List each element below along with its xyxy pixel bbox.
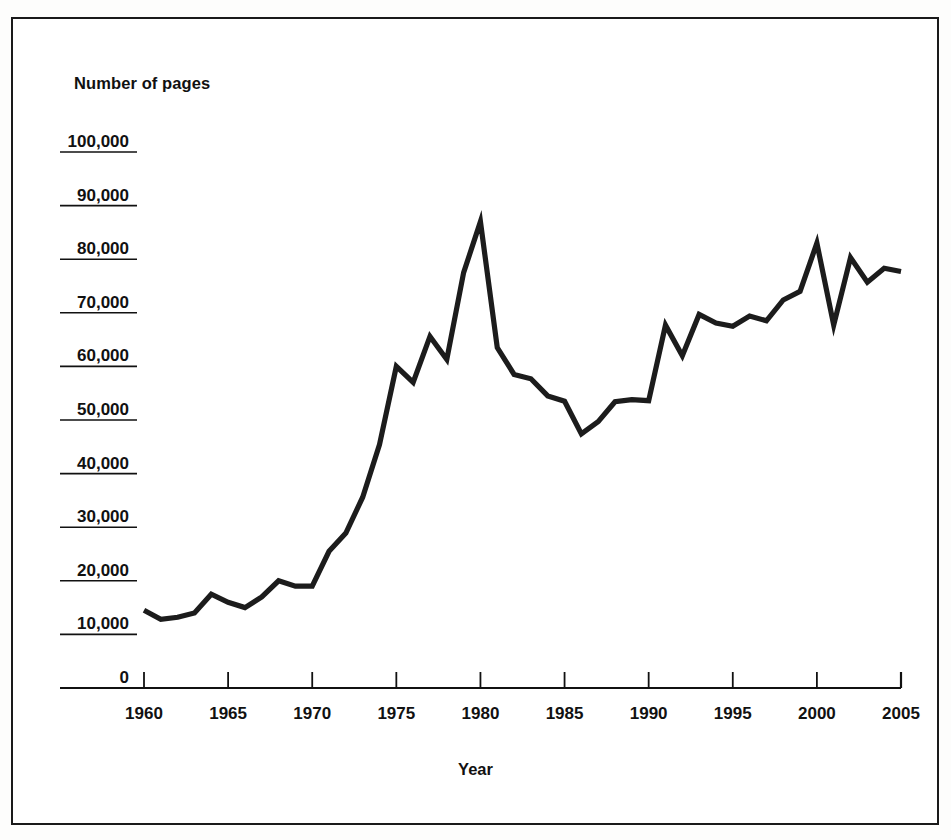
figure-frame-border <box>11 17 939 825</box>
y-axis-caption: Number of pages <box>74 74 210 93</box>
x-axis-caption: Year <box>0 760 951 779</box>
figure-page: Number of pages 010,00020,00030,00040,00… <box>0 0 951 840</box>
